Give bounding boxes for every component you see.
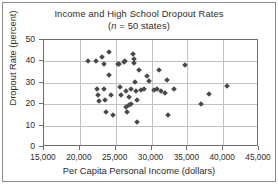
x-tick-label: 35,000 bbox=[166, 152, 206, 162]
data-point bbox=[136, 68, 142, 74]
x-tick-label: 40,000 bbox=[202, 152, 242, 162]
gridline-vertical bbox=[223, 40, 224, 145]
data-point bbox=[93, 59, 99, 65]
gridline-horizontal bbox=[44, 61, 257, 62]
y-tick-mark bbox=[39, 60, 43, 61]
data-point bbox=[117, 84, 123, 90]
data-point bbox=[94, 86, 100, 92]
data-point bbox=[108, 92, 114, 98]
y-tick-label: 0 bbox=[15, 141, 35, 151]
data-point bbox=[86, 59, 92, 65]
x-tick-mark bbox=[79, 146, 80, 150]
data-point bbox=[96, 98, 102, 104]
data-point bbox=[95, 92, 101, 98]
x-tick-label: 30,000 bbox=[131, 152, 171, 162]
data-point bbox=[206, 91, 212, 97]
data-point bbox=[172, 86, 178, 92]
x-tick-mark bbox=[43, 146, 44, 150]
x-tick-label: 45,000 bbox=[238, 152, 278, 162]
data-point bbox=[103, 109, 109, 115]
y-tick-mark bbox=[39, 125, 43, 126]
data-point bbox=[162, 90, 168, 96]
data-point bbox=[164, 77, 170, 83]
x-axis-title: Per Capita Personal Income (dollars) bbox=[0, 166, 278, 176]
y-tick-label: 50 bbox=[15, 34, 35, 44]
y-tick-label: 20 bbox=[15, 98, 35, 108]
data-point bbox=[129, 101, 135, 107]
chart-title: Income and High School Dropout Rates bbox=[0, 9, 278, 19]
data-point bbox=[134, 97, 140, 103]
y-tick-label: 40 bbox=[15, 55, 35, 65]
x-tick-label: 25,000 bbox=[95, 152, 135, 162]
data-point bbox=[126, 95, 132, 101]
chart-subtitle: (n = 50 states) bbox=[0, 21, 278, 31]
scatter-plot-figure: Income and High School Dropout Rates (n … bbox=[0, 0, 278, 184]
x-tick-mark bbox=[258, 146, 259, 150]
gridline-horizontal bbox=[44, 126, 257, 127]
y-tick-mark bbox=[39, 82, 43, 83]
subtitle-suffix: = 50 states) bbox=[117, 21, 170, 31]
gridline-horizontal bbox=[44, 104, 257, 105]
x-tick-mark bbox=[222, 146, 223, 150]
data-point bbox=[134, 119, 140, 125]
data-point bbox=[106, 72, 112, 78]
data-point bbox=[99, 54, 105, 60]
data-point bbox=[165, 112, 171, 118]
y-tick-mark bbox=[39, 39, 43, 40]
data-point bbox=[198, 101, 204, 107]
data-point bbox=[157, 68, 163, 74]
plot-area bbox=[43, 39, 258, 146]
y-tick-label: 10 bbox=[15, 120, 35, 130]
data-point bbox=[106, 50, 112, 56]
x-tick-mark bbox=[186, 146, 187, 150]
data-point bbox=[101, 86, 107, 92]
x-tick-mark bbox=[151, 146, 152, 150]
gridline-vertical bbox=[116, 40, 117, 145]
x-tick-label: 20,000 bbox=[59, 152, 99, 162]
gridline-vertical bbox=[187, 40, 188, 145]
data-point bbox=[101, 61, 107, 67]
y-tick-mark bbox=[39, 103, 43, 104]
x-tick-mark bbox=[115, 146, 116, 150]
x-tick-label: 15,000 bbox=[23, 152, 63, 162]
data-point bbox=[110, 112, 116, 118]
data-point bbox=[124, 109, 130, 115]
gridline-vertical bbox=[80, 40, 81, 145]
data-point bbox=[118, 92, 124, 98]
y-tick-label: 30 bbox=[15, 77, 35, 87]
data-point bbox=[102, 97, 108, 103]
